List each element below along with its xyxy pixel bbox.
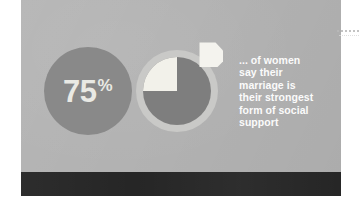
caption-line-3: marriage is [239,79,323,91]
stat-value: 75 % [63,76,112,107]
slide-root: 75 % ... of women say their marriage is … [0,0,359,204]
bottom-dark-band [21,172,341,196]
dotted-rule-secondary-icon [339,35,359,36]
stat-percent-symbol: % [97,77,112,94]
caption-line-5: form of social [239,104,323,116]
stat-circle: 75 % [44,47,132,135]
caption-line-1: ... of women [239,54,323,66]
stat-number: 75 [63,76,96,107]
caption-line-6: support [239,116,323,128]
dotted-rule-icon [337,30,359,32]
pie-minor-slice [143,57,177,91]
caption-line-2: say their [239,66,323,78]
pie-exploded-slice [198,41,224,68]
caption-line-4: their strongest [239,91,323,103]
caption-text: ... of women say their marriage is their… [239,54,323,128]
